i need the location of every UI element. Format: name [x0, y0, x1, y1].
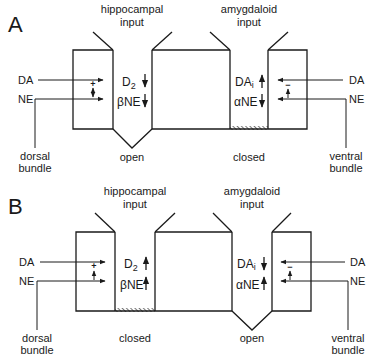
left-ne-arrow: [35, 99, 103, 148]
receptor-alpha-ne: αNE: [236, 278, 260, 292]
right-da-label: DA: [349, 74, 365, 86]
receptor-alpha-ne: αNE: [234, 95, 258, 109]
left-ne-label: NE: [19, 275, 34, 287]
right-sign: −: [285, 80, 290, 90]
right-ne-arrow: [281, 281, 348, 330]
hippocampal-input-label-2: input: [120, 16, 144, 28]
left-ne-arrow: [37, 281, 105, 330]
gate-structure: [73, 32, 307, 148]
receptor-dai: DAi: [237, 257, 256, 272]
amygdaloid-input-label-1: amygdaloid: [221, 3, 277, 15]
hippocampal-input-label-1: hippocampal: [104, 185, 166, 197]
gate-structure: [76, 213, 311, 330]
ventral-bundle-label-2: bundle: [329, 162, 362, 174]
amygdaloid-input-label-2: input: [240, 198, 264, 210]
amygdaloid-gate-state: closed: [233, 151, 265, 163]
left-sign: +: [91, 261, 96, 271]
receptor-d2: D2: [122, 75, 136, 91]
right-da-label: DA: [350, 256, 366, 268]
hippocampal-gate-state: closed: [119, 332, 151, 344]
ventral-bundle-label-1: ventral: [331, 332, 364, 344]
panel-label: A: [8, 12, 23, 37]
gating-diagram: A hippocampal input amygdaloid input: [0, 0, 379, 363]
right-ne-label: NE: [350, 275, 365, 287]
receptor-beta-ne: βNE: [120, 278, 144, 292]
left-da-label: DA: [18, 74, 34, 86]
panel-label: B: [8, 194, 23, 219]
receptor-d2: D2: [124, 257, 138, 273]
right-ne-arrow: [278, 99, 346, 148]
dorsal-bundle-label-2: bundle: [18, 162, 51, 174]
hippocampal-input-label-1: hippocampal: [101, 3, 163, 15]
right-ne-label: NE: [349, 93, 364, 105]
hippocampal-input-label-2: input: [123, 198, 147, 210]
panel-b: B hippocampal input amygdaloid input: [8, 185, 366, 356]
amygdaloid-gate-state: open: [240, 332, 264, 344]
ventral-bundle-label-2: bundle: [331, 344, 364, 356]
hippocampal-gate-state: open: [120, 151, 144, 163]
receptor-beta-ne: βNE: [117, 95, 141, 109]
receptor-dai: DAi: [235, 75, 254, 90]
dorsal-bundle-label-1: dorsal: [20, 150, 50, 162]
dorsal-bundle-label-2: bundle: [20, 344, 53, 356]
ventral-bundle-label-1: ventral: [329, 150, 362, 162]
amygdaloid-gate-open: [232, 311, 272, 330]
amygdaloid-input-label-2: input: [237, 16, 261, 28]
dorsal-bundle-label-1: dorsal: [22, 332, 52, 344]
left-ne-label: NE: [18, 93, 33, 105]
hippocampal-gate-open: [113, 129, 152, 148]
right-sign: −: [287, 262, 292, 272]
left-da-label: DA: [19, 256, 35, 268]
left-sign: +: [90, 79, 95, 89]
amygdaloid-input-label-1: amygdaloid: [224, 185, 280, 197]
panel-a: A hippocampal input amygdaloid input: [8, 3, 365, 174]
